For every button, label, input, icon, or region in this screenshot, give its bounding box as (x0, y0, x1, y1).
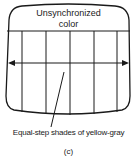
screen-label-line2: color (0, 20, 137, 29)
panel-label: (c) (0, 148, 137, 156)
screen-label-line1: Unsynchronized (0, 9, 137, 18)
double-arrow-icon (8, 60, 129, 66)
callout-label: Equal-step shades of yellow-gray (0, 129, 137, 137)
callout-leader-line (51, 72, 64, 127)
stripe-dividers (22, 31, 117, 115)
